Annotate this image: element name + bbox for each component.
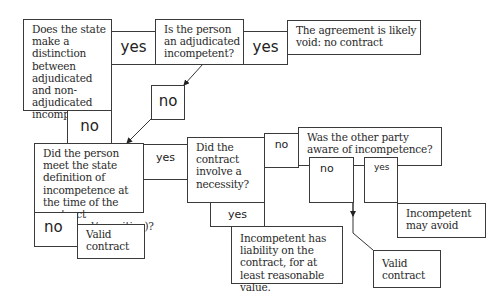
result-incompetent-may-avoid: Incompetent may avoid xyxy=(397,203,486,238)
label-no-aware: no xyxy=(309,157,354,203)
result-incompetent-liability: Incompetent has liability on the contrac… xyxy=(231,226,343,284)
result-agreement-void: The agreement is likely void: no contrac… xyxy=(287,20,421,55)
result-valid-contract-1: Valid contract xyxy=(77,224,145,259)
question-state-definition: Did the person meet the state definition… xyxy=(34,143,144,213)
label-yes-aware: yes xyxy=(364,157,398,203)
question-necessity: Did the contract involve a necessity? xyxy=(187,137,265,203)
label-no-definition: no xyxy=(34,212,78,247)
label-yes-adjudicated: yes xyxy=(243,31,288,65)
result-valid-contract-2: Valid contract xyxy=(373,250,441,288)
label-no-distinction: no xyxy=(67,110,112,144)
label-yes-definition: yes xyxy=(143,144,188,180)
question-adjudicated-incompetent: Is the person an adjudicated incompetent… xyxy=(155,19,244,65)
label-no-necessity: no xyxy=(264,133,299,168)
label-no-adjudicated: no xyxy=(151,85,185,120)
question-state-distinction: Does the state make a distinction betwee… xyxy=(23,19,112,111)
label-yes-necessity: yes xyxy=(210,202,265,227)
label-yes-distinction: yes xyxy=(111,31,156,65)
